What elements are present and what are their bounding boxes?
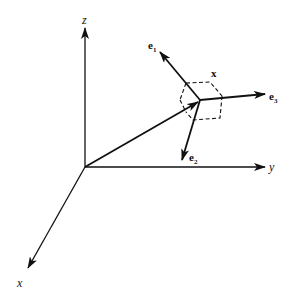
y-axis-label: y	[269, 161, 274, 173]
e3-label: e3	[269, 91, 277, 105]
e3-vector	[200, 94, 265, 100]
x-axis	[28, 167, 85, 268]
e3-sub: 3	[274, 97, 278, 105]
z-axis-label: z	[82, 14, 87, 26]
e2-label: e2	[189, 152, 197, 166]
volume-element-cube	[180, 82, 222, 120]
e1-vector	[160, 52, 200, 100]
point-label: x	[211, 68, 217, 79]
e2-sub: 2	[194, 158, 198, 166]
x-axis-label: x	[17, 277, 22, 289]
e1-label: e1	[148, 40, 156, 54]
e1-sub: 1	[153, 46, 157, 54]
position-vector	[85, 102, 198, 167]
